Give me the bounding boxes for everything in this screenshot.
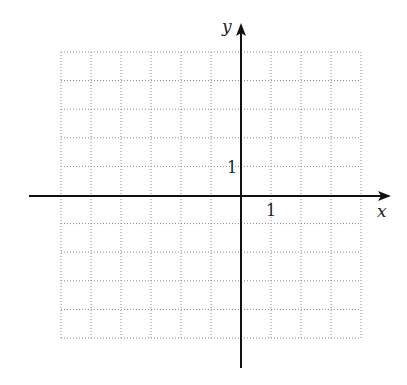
y-axis-label: y — [221, 16, 232, 36]
x-tick-label: 1 — [266, 201, 276, 220]
y-tick-label: 1 — [227, 158, 237, 177]
axes — [29, 23, 391, 368]
coordinate-plane: y x 1 1 — [0, 0, 407, 385]
x-axis-label: x — [377, 201, 387, 221]
